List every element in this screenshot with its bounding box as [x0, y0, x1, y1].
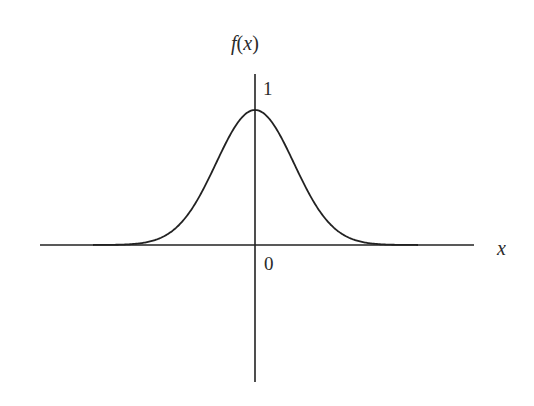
bell-curve-figure: f(x) 1 0 x: [0, 0, 534, 406]
y-axis-label-var: x: [242, 32, 252, 54]
y-axis-label-paren-close: ): [252, 32, 259, 55]
peak-value-label: 1: [263, 78, 273, 99]
x-axis-label: x: [496, 237, 506, 259]
y-axis-label: f(x): [231, 32, 259, 55]
origin-label: 0: [264, 253, 274, 274]
